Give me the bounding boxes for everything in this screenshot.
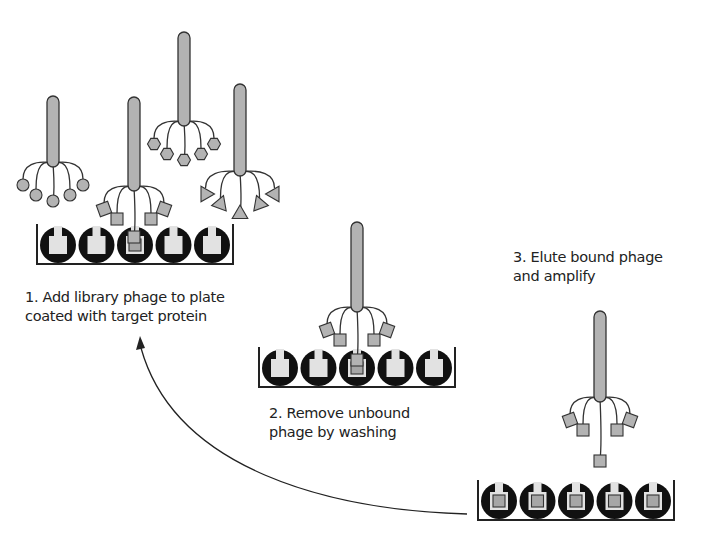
step-3-label-line-2: and amplify	[513, 267, 663, 286]
square-ligand-icon	[562, 412, 577, 427]
well	[520, 482, 556, 519]
binding-pocket	[310, 359, 328, 377]
triangle-phage	[201, 84, 279, 219]
bound-ligand-icon	[609, 495, 621, 507]
step-1-label-line-2: coated with target protein	[25, 307, 225, 326]
well	[156, 226, 192, 263]
circle-ligand-icon	[77, 179, 89, 191]
bound-ligand-icon	[493, 495, 505, 507]
hexagon-ligand-icon	[148, 138, 161, 149]
phage-body	[594, 311, 606, 402]
triangle-ligand-icon	[212, 196, 227, 211]
bound-ligand-icon	[532, 495, 544, 507]
well	[79, 226, 115, 263]
well	[481, 482, 517, 519]
triangle-ligand-icon	[232, 205, 248, 219]
well	[597, 482, 633, 519]
well	[40, 226, 76, 263]
circle-ligand-icon	[64, 189, 76, 201]
phage-body	[128, 97, 140, 191]
step-3-label: 3. Elute bound phage and amplify	[513, 248, 663, 286]
binding-pocket	[165, 236, 183, 254]
square-phage	[562, 311, 637, 467]
well	[558, 482, 594, 519]
circle-ligand-icon	[30, 189, 42, 201]
square-ligand-icon	[145, 213, 157, 225]
square-ligand-icon	[96, 201, 111, 216]
bound-ligand-icon	[647, 495, 659, 507]
well	[194, 226, 230, 263]
phage-body	[351, 222, 363, 312]
square-ligand-icon	[319, 322, 334, 337]
hexagon-ligand-icon	[195, 148, 208, 159]
phage-body	[234, 84, 246, 176]
binding-pocket	[271, 359, 289, 377]
step-2-label-line-1: 2. Remove unbound	[269, 404, 410, 423]
square-ligand-icon	[611, 424, 623, 436]
step-3-label-line-1: 3. Elute bound phage	[513, 248, 663, 267]
triangle-ligand-icon	[201, 186, 215, 202]
bound-ligand-icon	[570, 495, 582, 507]
square-ligand-icon	[111, 213, 123, 225]
hexagon-phage	[148, 32, 221, 166]
step-2-label-line-2: phage by washing	[269, 423, 410, 442]
hexagon-ligand-icon	[208, 138, 221, 149]
well	[378, 349, 414, 386]
well	[635, 482, 671, 519]
well	[262, 349, 298, 386]
hexagon-ligand-icon	[178, 154, 191, 165]
binding-pocket	[387, 359, 405, 377]
square-ligand-icon	[594, 455, 606, 467]
phage-body	[47, 96, 59, 167]
square-phage	[96, 97, 171, 243]
phage-body	[178, 32, 190, 126]
triangle-ligand-icon	[266, 186, 280, 202]
square-ligand-icon	[622, 412, 637, 427]
square-ligand-icon	[156, 201, 171, 216]
tail-fiber	[357, 308, 358, 360]
square-ligand-icon	[379, 322, 394, 337]
hexagon-ligand-icon	[161, 148, 174, 159]
arrowhead-icon	[136, 336, 145, 350]
step-3-plate	[478, 480, 674, 520]
binding-pocket	[203, 236, 221, 254]
step-2-label: 2. Remove unbound phage by washing	[269, 404, 410, 442]
square-ligand-icon	[368, 334, 380, 346]
tail-fiber	[600, 398, 601, 461]
step-1-label: 1. Add library phage to plate coated wit…	[25, 288, 225, 326]
well	[301, 349, 337, 386]
square-ligand-icon	[334, 334, 346, 346]
well	[416, 349, 452, 386]
square-ligand-icon	[351, 354, 363, 366]
square-ligand-icon	[577, 424, 589, 436]
tail-fiber	[134, 187, 135, 237]
circle-ligand-icon	[17, 179, 29, 191]
circle-phage	[17, 96, 89, 207]
square-phage	[319, 222, 394, 366]
step-1-label-line-1: 1. Add library phage to plate	[25, 288, 225, 307]
triangle-ligand-icon	[254, 196, 269, 211]
binding-pocket	[49, 236, 67, 254]
square-ligand-icon	[128, 231, 140, 243]
circle-ligand-icon	[47, 195, 59, 207]
binding-pocket	[425, 359, 443, 377]
binding-pocket	[88, 236, 106, 254]
